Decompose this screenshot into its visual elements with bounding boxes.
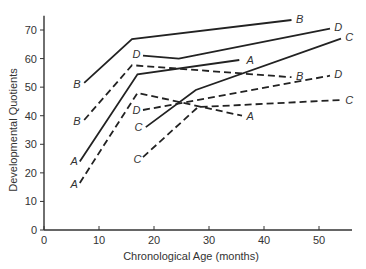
- series-label-b: B: [296, 70, 303, 82]
- line-chart: 01020304050607001020304050 AAAABBBBCCCCD…: [0, 0, 366, 269]
- series-label-b: B: [296, 13, 303, 25]
- series-label-b: B: [73, 78, 80, 90]
- series-label-a: A: [246, 110, 254, 122]
- y-tick-label: 10: [25, 195, 37, 207]
- x-tick-label: 30: [203, 234, 215, 246]
- series-c-solid-line: [146, 39, 341, 128]
- x-tick-label: 20: [148, 234, 160, 246]
- series-label-c: C: [345, 94, 353, 106]
- x-tick-label: 40: [258, 234, 270, 246]
- series-label-d: D: [132, 48, 140, 60]
- x-tick-label: 0: [41, 234, 47, 246]
- axes: 01020304050607001020304050: [25, 16, 352, 246]
- series-c-dashed-line: [143, 100, 341, 157]
- series-label-c: C: [134, 153, 142, 165]
- series-label-c: C: [135, 121, 143, 133]
- series-label-d: D: [334, 68, 342, 80]
- y-tick-label: 50: [25, 81, 37, 93]
- series-b-solid-line: [84, 20, 291, 83]
- y-tick-label: 60: [25, 53, 37, 65]
- series-d-solid-line: [143, 29, 330, 59]
- series-label-a: A: [70, 155, 78, 167]
- series-label-a: A: [246, 54, 254, 66]
- y-tick-label: 40: [25, 110, 37, 122]
- series-label-b: B: [73, 115, 80, 127]
- series-b-dashed-line: [84, 65, 291, 120]
- x-tick-label: 50: [313, 234, 325, 246]
- series-a-solid-line: [80, 60, 240, 161]
- x-axis-title: Chronological Age (months): [123, 250, 259, 262]
- y-tick-label: 0: [31, 224, 37, 236]
- y-axis-title: Developmental Quotients: [7, 68, 19, 192]
- series-label-a: A: [70, 178, 78, 190]
- series-label-c: C: [345, 31, 353, 43]
- y-tick-label: 30: [25, 138, 37, 150]
- series-label-d: D: [132, 104, 140, 116]
- series-label-d: D: [334, 21, 342, 33]
- y-tick-label: 70: [25, 24, 37, 36]
- x-tick-label: 10: [93, 234, 105, 246]
- y-tick-label: 20: [25, 167, 37, 179]
- series-lines: [80, 20, 341, 183]
